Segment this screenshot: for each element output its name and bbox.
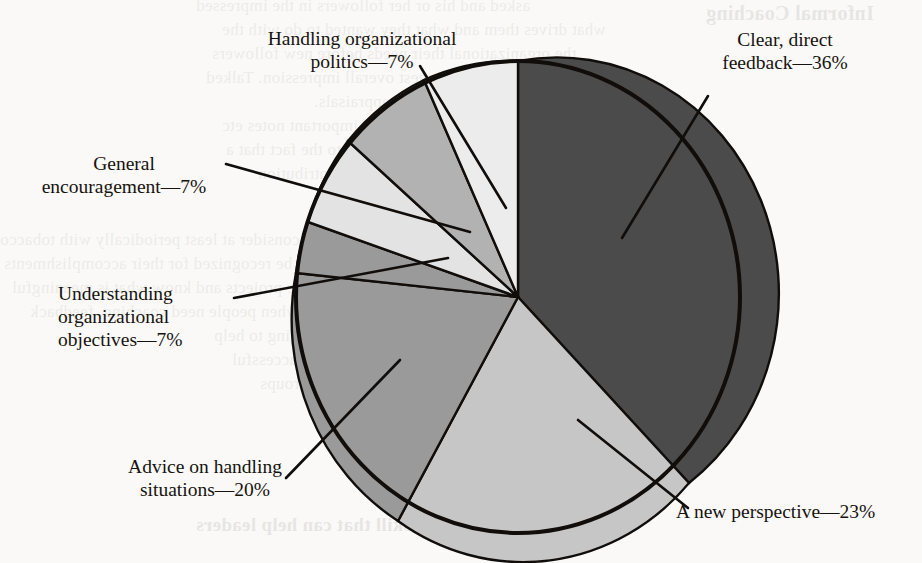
pie-label-a-new-perspective: A new perspective—23%: [676, 500, 916, 523]
pie-label-advice-on-handling-situations: Advice on handling situations—20%: [86, 455, 324, 501]
pie-label-understanding-organizational-objectives: Understanding organizational objectives—…: [58, 282, 248, 351]
pie-wedges: [292, 57, 779, 562]
pie-chart: Handling organizational politics—7% Clea…: [0, 0, 922, 563]
pie-label-general-encouragement: General encouragement—7%: [8, 152, 240, 198]
pie-label-handling-organizational-politics: Handling organizational politics—7%: [228, 27, 496, 73]
pie-label-clear-direct-feedback: Clear, direct feedback—36%: [690, 28, 880, 74]
